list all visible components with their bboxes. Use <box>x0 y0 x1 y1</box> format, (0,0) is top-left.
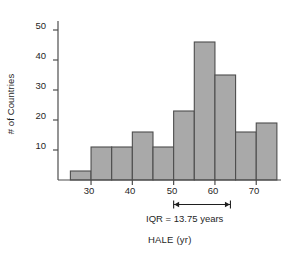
histogram-bar <box>215 75 236 180</box>
iqr-annotation-label: IQR = 13.75 years <box>146 213 223 224</box>
histogram-bar <box>174 111 195 180</box>
iqr-arrowhead-right <box>225 202 230 208</box>
histogram-bar <box>256 123 277 180</box>
histogram-bar <box>91 147 112 180</box>
histogram-bar <box>194 42 215 180</box>
histogram-figure: # of Countries 50 40 30 20 10 30 40 50 6… <box>0 0 297 255</box>
histogram-bar <box>153 147 174 180</box>
histogram-bar <box>112 147 133 180</box>
bars-layer <box>70 42 276 180</box>
x-axis-title: HALE (yr) <box>148 234 192 245</box>
iqr-arrow <box>174 201 231 209</box>
histogram-bar <box>236 132 257 180</box>
iqr-arrowhead-left <box>174 202 179 208</box>
histogram-bar <box>70 171 91 180</box>
histogram-bar <box>132 132 153 180</box>
